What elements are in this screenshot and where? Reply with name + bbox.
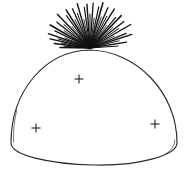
figure-canvas: [0, 0, 188, 173]
line-drawing-svg: [0, 0, 188, 173]
